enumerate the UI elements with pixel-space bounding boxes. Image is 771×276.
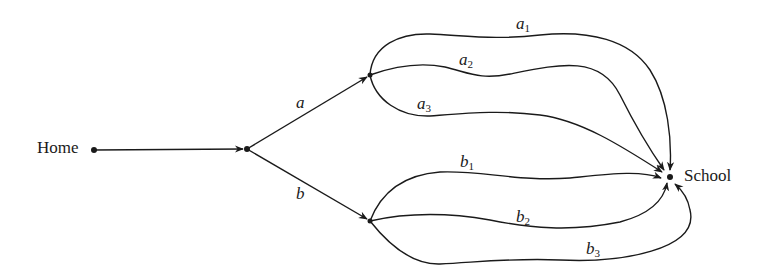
edge-home-split <box>94 149 243 150</box>
edge-label-a3: a3 <box>417 94 431 114</box>
edge-b <box>247 149 367 219</box>
node-lower <box>368 219 373 224</box>
edge-a2 <box>370 65 664 170</box>
edge-label-a: a <box>296 93 305 113</box>
edge-label-b2: b2 <box>516 207 530 227</box>
edge-label-b: b <box>296 184 305 204</box>
edge-b3 <box>370 184 691 264</box>
school-label: School <box>684 166 731 186</box>
home-label: Home <box>37 138 79 158</box>
node-home <box>91 147 97 153</box>
edge-label-b3: b3 <box>586 239 600 259</box>
route-diagram: Home School a b a1 a2 a3 b1 b2 b3 <box>0 0 771 276</box>
node-upper <box>368 73 373 78</box>
node-school <box>667 174 673 180</box>
edge-label-a2: a2 <box>459 50 473 70</box>
node-split <box>244 146 250 152</box>
graph-canvas <box>0 0 771 276</box>
edge-a3 <box>370 75 662 172</box>
edge-label-a1: a1 <box>516 14 530 34</box>
edge-label-b1: b1 <box>460 152 474 172</box>
edge-a <box>247 77 367 149</box>
